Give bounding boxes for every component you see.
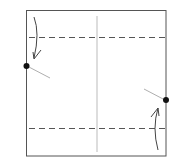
right-reference-line [144, 89, 165, 100]
left-reference-point [24, 63, 30, 69]
origami-diagram [0, 0, 177, 163]
right-reference-point [163, 97, 169, 103]
paper-square [27, 11, 167, 157]
left-reference-line [27, 66, 50, 78]
